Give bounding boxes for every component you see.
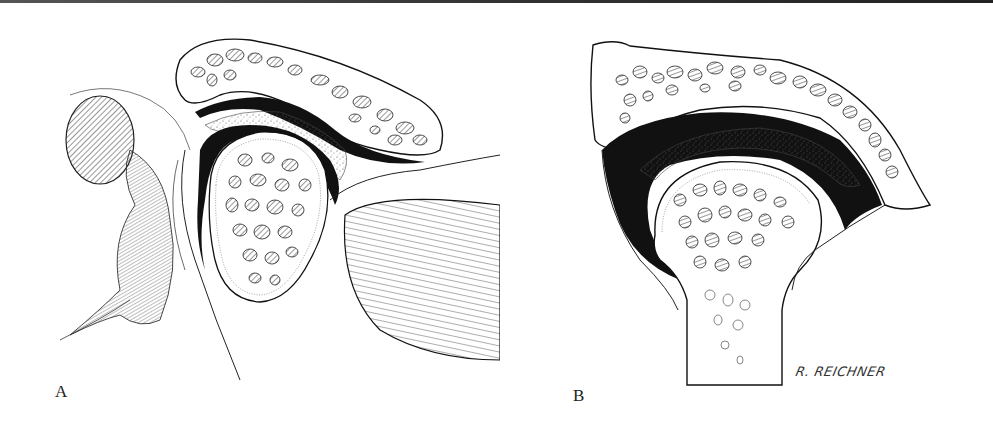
condyle xyxy=(209,132,328,302)
artist-signature: R. REICHNER xyxy=(794,364,887,379)
lateral-pterygoid-muscle xyxy=(344,199,500,360)
panel-a-illustration xyxy=(0,0,500,435)
panel-b-drawing xyxy=(560,0,993,435)
panel-label-a: A xyxy=(55,382,67,402)
panel-label-b: B xyxy=(573,386,584,406)
panel-b-illustration xyxy=(560,0,993,435)
panel-a-drawing xyxy=(0,0,500,435)
joint-capsule-posterior xyxy=(173,160,185,270)
